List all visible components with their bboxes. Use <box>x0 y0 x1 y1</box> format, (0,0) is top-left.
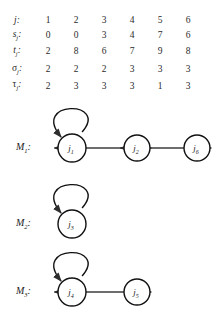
table-cell: 3 <box>118 78 146 94</box>
machine-graph-m1: M1:j1j2j6 <box>0 104 221 176</box>
machine-graph-m3: M3:j4j5 <box>0 248 221 318</box>
self-loop-edge <box>54 253 88 281</box>
table-cell: 3 <box>146 62 174 78</box>
graph-canvas-m2: j3 <box>0 184 221 244</box>
table-cell: 7 <box>146 28 174 44</box>
table-cell: 5 <box>146 14 174 28</box>
table-cell: 2 <box>34 44 62 60</box>
row-label: τj: <box>0 78 34 94</box>
machine-graph-m2: M2:j3 <box>0 184 221 244</box>
table-row: σj:222333 <box>0 62 202 78</box>
table-cell: 8 <box>62 44 90 60</box>
table-cell: 4 <box>118 28 146 44</box>
row-label: j: <box>0 14 34 28</box>
table-cell: 4 <box>118 14 146 28</box>
table-cell: 9 <box>146 44 174 60</box>
graph-node-label-subscript: 4 <box>71 293 74 299</box>
table-row: sj:003476 <box>0 28 202 44</box>
row-label: tj: <box>0 44 34 60</box>
graph-node-label-subscript: 3 <box>70 225 74 231</box>
table-cell: 0 <box>34 28 62 44</box>
row-label-colon: : <box>18 79 21 89</box>
job-data-table-bottom-grid: σj:222333τj:233313 <box>0 62 202 95</box>
table-cell: 1 <box>34 14 62 28</box>
row-label-colon: : <box>18 45 21 55</box>
table-cell: 3 <box>90 78 118 94</box>
row-label: σj: <box>0 62 34 78</box>
table-cell: 3 <box>118 62 146 78</box>
table-cell: 6 <box>174 14 202 28</box>
table-cell: 2 <box>62 62 90 78</box>
job-data-table-top: j:123456sj:003476tj:286798 <box>0 14 221 60</box>
table-cell: 3 <box>90 28 118 44</box>
table-cell: 3 <box>62 78 90 94</box>
table-cell: 2 <box>34 62 62 78</box>
table-cell: 7 <box>118 44 146 60</box>
table-top-body: j:123456sj:003476tj:286798 <box>0 14 202 60</box>
graph-node-label-subscript: 5 <box>136 293 139 299</box>
table-cell: 3 <box>174 62 202 78</box>
table-cell: 8 <box>174 44 202 60</box>
self-loop-edge <box>54 185 88 213</box>
graph-canvas-m3: j4j5 <box>0 248 221 318</box>
table-cell: 2 <box>62 14 90 28</box>
table-row: τj:233313 <box>0 78 202 94</box>
self-loop-edge <box>54 109 88 137</box>
graph-node-label-subscript: 1 <box>71 149 74 155</box>
row-label-colon: : <box>18 29 21 39</box>
table-cell: 3 <box>174 78 202 94</box>
table-cell: 1 <box>146 78 174 94</box>
job-data-table-top-grid: j:123456sj:003476tj:286798 <box>0 14 202 60</box>
table-row: tj:286798 <box>0 44 202 60</box>
row-label: sj: <box>0 28 34 44</box>
table-cell: 0 <box>62 28 90 44</box>
table-cell: 3 <box>90 14 118 28</box>
table-cell: 6 <box>174 28 202 44</box>
table-cell: 6 <box>90 44 118 60</box>
graph-node-label-subscript: 6 <box>196 149 199 155</box>
row-label-colon: : <box>17 15 20 25</box>
job-data-table-bottom: σj:222333τj:233313 <box>0 62 221 95</box>
table-cell: 2 <box>90 62 118 78</box>
table-cell: 2 <box>34 78 62 94</box>
row-label-colon: : <box>19 63 22 73</box>
graph-node-label-subscript: 2 <box>136 149 139 155</box>
table-bottom-body: σj:222333τj:233313 <box>0 62 202 95</box>
table-row: j:123456 <box>0 14 202 28</box>
graph-canvas-m1: j1j2j6 <box>0 104 221 176</box>
